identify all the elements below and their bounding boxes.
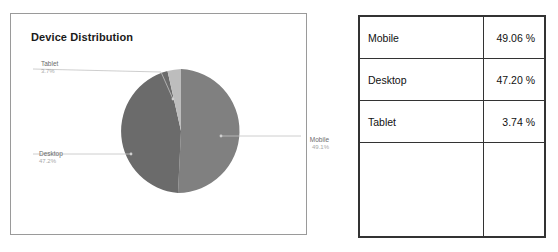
pie-callout-desktop-value: 47.2% bbox=[39, 158, 63, 166]
table-filler-cell-left bbox=[360, 143, 484, 237]
pie-callout-mobile-value: 49.1% bbox=[310, 144, 329, 152]
table-cell-value: 47.20 % bbox=[484, 59, 545, 101]
pie-callout-desktop-label: Desktop bbox=[39, 150, 63, 158]
stats-table: Mobile 49.06 % Desktop 47.20 % Tablet 3.… bbox=[358, 15, 546, 238]
table-filler-cell-right bbox=[484, 143, 545, 237]
table-cell-value: 49.06 % bbox=[484, 17, 545, 59]
pie-callout-tablet: Tablet 3.7% bbox=[41, 60, 58, 76]
table-cell-label: Tablet bbox=[360, 101, 484, 143]
pie-callout-mobile-label: Mobile bbox=[310, 136, 329, 144]
table-cell-label: Mobile bbox=[360, 17, 484, 59]
leader-dot-desktop bbox=[130, 153, 133, 156]
table-row: Mobile 49.06 % bbox=[360, 17, 545, 59]
pie-callout-tablet-value: 3.7% bbox=[41, 68, 58, 76]
table-cell-label: Desktop bbox=[360, 59, 484, 101]
table-filler-row bbox=[360, 143, 545, 237]
pie-callout-desktop: Desktop 47.2% bbox=[39, 150, 63, 166]
table-row: Tablet 3.74 % bbox=[360, 101, 545, 143]
leader-dot-mobile bbox=[220, 135, 223, 138]
pie-slice-mobile[interactable] bbox=[178, 69, 240, 193]
leader-dot-tablet bbox=[172, 98, 175, 101]
table-row: Desktop 47.20 % bbox=[360, 59, 545, 101]
pie-chart bbox=[11, 14, 308, 236]
chart-panel: Device Distribution Tablet 3.7% Desktop … bbox=[10, 13, 307, 235]
table-cell-value: 3.74 % bbox=[484, 101, 545, 143]
pie-callout-tablet-label: Tablet bbox=[41, 60, 58, 68]
pie-callout-mobile: Mobile 49.1% bbox=[310, 136, 329, 152]
